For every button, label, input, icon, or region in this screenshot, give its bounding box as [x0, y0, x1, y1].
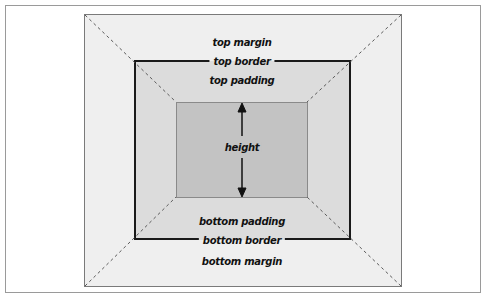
- bottom-padding-label: bottom padding: [195, 216, 289, 227]
- bottom-border-label: bottom border: [199, 235, 285, 246]
- top-margin-label: top margin: [208, 37, 275, 48]
- top-padding-label: top padding: [206, 75, 279, 86]
- height-label: height: [223, 142, 262, 153]
- bottom-margin-label: bottom margin: [198, 256, 286, 267]
- top-border-label: top border: [209, 56, 274, 67]
